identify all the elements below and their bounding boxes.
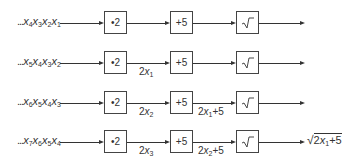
multiply-label: •2 [111,57,120,68]
connector-line [60,142,100,143]
connector-line [193,103,232,104]
connector-line [193,142,232,143]
input-stream-label: ...x4x3x2x1 [17,15,61,28]
add-label: +5 [176,136,187,147]
connector-line [193,23,232,24]
connector-line [193,63,232,64]
intermediate-value-label: 2x2 [139,106,153,118]
intermediate-value-label: 2x1 [139,66,153,78]
connector-line [60,103,100,104]
multiply-box: •2 [104,51,127,74]
pipeline-row: ...x4x3x2x1•2+5 [0,8,358,38]
connector-line [259,23,301,24]
connector-line [127,63,166,64]
multiply-label: •2 [111,97,120,108]
output-value-label: √2x1+5 [307,133,342,147]
connector-line [60,63,100,64]
connector-line [259,63,301,64]
add-box: +5 [170,91,193,114]
arrowhead-icon [300,140,305,144]
square-root-box [236,91,259,114]
add-box: +5 [170,11,193,34]
add-box: +5 [170,130,193,153]
intermediate-value-label: 2x1+5 [198,106,224,118]
multiply-box: •2 [104,91,127,114]
connector-line [259,103,301,104]
multiply-box: •2 [104,130,127,153]
connector-line [127,23,166,24]
square-root-icon [241,136,255,148]
square-root-box [236,11,259,34]
multiply-label: •2 [111,17,120,28]
input-stream-label: ...x5x4x3x2 [17,55,61,68]
add-label: +5 [176,17,187,28]
square-root-icon [241,17,255,29]
pipeline-row: ...x5x4x3x2•2+52x1 [0,48,358,78]
connector-line [60,23,100,24]
pipeline-row: ...x6x5x4x3•2+52x22x1+5 [0,88,358,118]
add-label: +5 [176,57,187,68]
connector-line [259,142,301,143]
square-root-box [236,51,259,74]
pipeline-row: ...x7x6x5x4•2+52x32x2+5√2x1+5 [0,127,358,157]
connector-line [127,142,166,143]
arrowhead-icon [300,61,305,65]
square-root-icon [241,97,255,109]
multiply-box: •2 [104,11,127,34]
square-root-box [236,130,259,153]
connector-line [127,103,166,104]
arrowhead-icon [300,21,305,25]
add-box: +5 [170,51,193,74]
multiply-label: •2 [111,136,120,147]
intermediate-value-label: 2x3 [139,145,153,157]
input-stream-label: ...x6x5x4x3 [17,95,61,108]
arrowhead-icon [300,101,305,105]
intermediate-value-label: 2x2+5 [198,145,224,157]
input-stream-label: ...x7x6x5x4 [17,134,61,147]
square-root-icon [241,57,255,69]
add-label: +5 [176,97,187,108]
